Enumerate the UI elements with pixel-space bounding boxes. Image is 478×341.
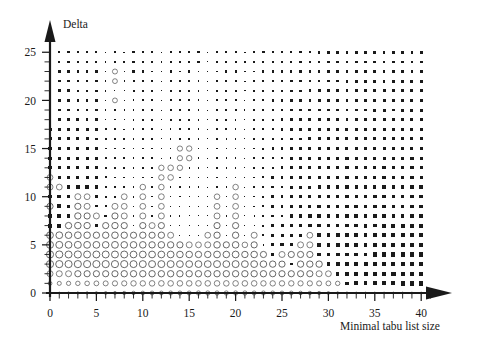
marker-filled <box>142 167 144 169</box>
marker-filled <box>308 137 311 140</box>
marker-filled <box>327 157 330 160</box>
marker-filled <box>271 234 274 237</box>
marker-filled <box>327 118 330 121</box>
marker-filled <box>420 99 423 102</box>
marker-filled <box>373 252 377 256</box>
marker-filled <box>401 166 404 169</box>
marker-filled <box>67 147 70 150</box>
marker-filled <box>327 233 331 237</box>
marker-filled <box>161 110 162 111</box>
marker-filled <box>170 206 171 207</box>
marker-filled <box>253 71 255 73</box>
marker-filled <box>133 109 135 111</box>
marker-filled <box>105 109 107 111</box>
marker-filled <box>170 90 172 92</box>
marker-filled <box>170 138 172 140</box>
marker-filled <box>67 99 70 102</box>
marker-filled <box>290 51 292 53</box>
marker-filled <box>281 70 283 72</box>
marker-filled <box>401 252 405 256</box>
marker-filled <box>354 214 358 218</box>
marker-filled <box>336 51 339 54</box>
marker-filled <box>420 109 423 112</box>
marker-filled <box>188 128 190 130</box>
marker-filled <box>392 214 396 218</box>
marker-filled <box>216 61 218 63</box>
marker-filled <box>392 195 395 198</box>
marker-filled <box>123 157 125 159</box>
marker-filled <box>114 51 116 53</box>
marker-filled <box>327 109 330 112</box>
marker-filled <box>86 128 89 131</box>
marker-filled <box>419 214 423 218</box>
marker-filled <box>244 158 245 159</box>
marker-filled <box>336 214 340 218</box>
marker-filled <box>216 80 218 82</box>
marker-filled <box>262 51 264 53</box>
marker-filled <box>318 195 321 198</box>
marker-filled <box>133 128 135 130</box>
marker-filled <box>281 128 284 131</box>
x-tick-label: 10 <box>137 307 149 319</box>
marker-filled <box>345 137 348 140</box>
marker-filled <box>142 157 144 159</box>
marker-filled <box>58 51 60 53</box>
marker-filled <box>272 147 274 149</box>
marker-filled <box>189 196 190 197</box>
marker-filled <box>226 196 227 197</box>
marker-filled <box>244 109 245 110</box>
marker-filled <box>133 80 135 82</box>
marker-filled <box>58 157 61 160</box>
marker-filled <box>198 80 200 82</box>
marker-filled <box>354 272 358 276</box>
marker-filled <box>410 89 413 92</box>
marker-filled <box>364 89 367 92</box>
marker-filled <box>345 272 349 276</box>
marker-filled <box>235 80 237 82</box>
marker-filled <box>105 52 106 53</box>
marker-filled <box>262 196 264 198</box>
marker-filled <box>207 225 208 226</box>
marker-filled <box>290 80 293 83</box>
marker-filled <box>420 61 423 64</box>
marker-filled <box>308 166 311 169</box>
marker-filled <box>373 61 376 64</box>
marker-filled <box>272 61 274 63</box>
marker-filled <box>198 196 199 197</box>
x-axis-title: Minimal tabu list size <box>340 320 440 332</box>
marker-filled <box>299 80 301 82</box>
marker-filled <box>124 100 125 101</box>
marker-filled <box>170 128 172 130</box>
marker-filled <box>410 185 413 188</box>
marker-filled <box>410 137 413 140</box>
marker-filled <box>364 185 367 188</box>
marker-filled <box>207 206 208 207</box>
marker-filled <box>345 262 349 266</box>
x-tick-label: 20 <box>230 307 242 319</box>
marker-filled <box>188 109 190 111</box>
marker-filled <box>262 167 264 169</box>
marker-filled <box>401 195 405 199</box>
marker-filled <box>410 157 413 160</box>
marker-filled <box>244 61 245 62</box>
marker-filled <box>58 166 61 169</box>
marker-filled <box>58 147 61 150</box>
marker-filled <box>133 225 134 226</box>
marker-filled <box>142 177 144 179</box>
marker-filled <box>262 148 264 150</box>
marker-filled <box>253 99 255 101</box>
marker-filled <box>58 70 61 73</box>
marker-filled <box>281 166 284 169</box>
marker-filled <box>216 186 217 187</box>
marker-filled <box>410 176 413 179</box>
x-tick-label: 30 <box>323 307 335 319</box>
marker-filled <box>225 99 227 101</box>
marker-filled <box>77 99 80 102</box>
marker-filled <box>410 262 414 266</box>
marker-filled <box>336 262 340 266</box>
marker-filled <box>299 128 302 131</box>
marker-filled <box>364 272 368 276</box>
marker-filled <box>105 90 107 92</box>
marker-filled <box>58 118 61 121</box>
marker-filled <box>318 109 321 112</box>
